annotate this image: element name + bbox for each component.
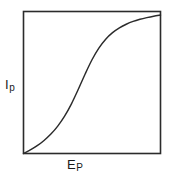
x-axis-label-main: E [67, 157, 76, 172]
y-axis-label-subscript: p [9, 82, 15, 93]
y-axis-label: Ip [5, 78, 15, 93]
x-axis-label-subscript: P [76, 162, 83, 173]
figure-root: Ip EP [0, 0, 172, 183]
plot-canvas [0, 0, 172, 183]
x-axis-label: EP [67, 158, 83, 173]
plot-frame [24, 12, 161, 154]
